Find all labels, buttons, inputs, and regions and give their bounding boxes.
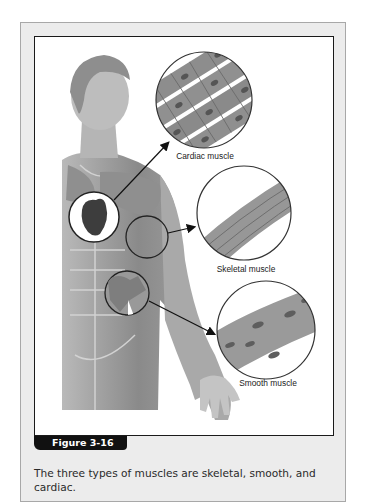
figure-caption: The three types of muscles are skeletal,… <box>34 466 334 494</box>
cardiac-muscle-circle <box>137 36 274 164</box>
label-skeletal-muscle: Skeletal muscle <box>217 264 276 274</box>
heart-inset <box>69 192 119 242</box>
smooth-muscle-circle <box>210 281 320 380</box>
label-cardiac-muscle: Cardiac muscle <box>176 151 234 161</box>
label-smooth-muscle: Smooth muscle <box>239 378 297 388</box>
figure-number-badge: Figure 3-16 <box>34 436 127 450</box>
intestine-inset <box>105 271 149 316</box>
